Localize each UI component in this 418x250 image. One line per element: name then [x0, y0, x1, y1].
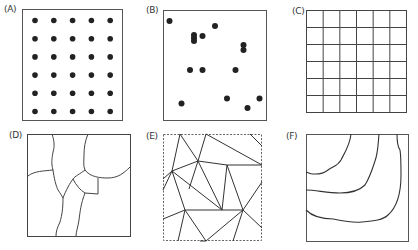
panel-f-contours [306, 134, 409, 242]
panel-c-square-grid [307, 11, 407, 113]
figure-canvas [0, 0, 418, 250]
panel-e-tin [163, 134, 262, 241]
panel-a-point-grid [23, 10, 123, 121]
panel-b-random-points [164, 11, 267, 121]
panel-d-polygons [28, 134, 131, 237]
